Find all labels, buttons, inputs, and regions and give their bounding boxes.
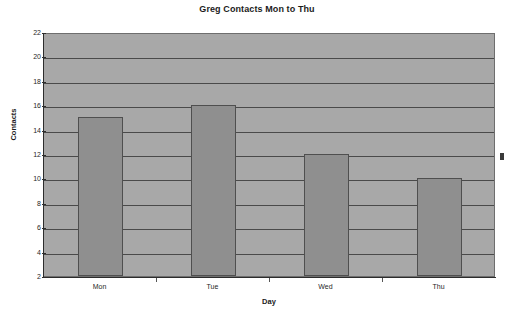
- gridline: [44, 34, 494, 35]
- x-tick-mark: [269, 278, 270, 282]
- bar: [417, 178, 462, 276]
- y-tick-label: 4: [15, 249, 41, 257]
- chart-title: Greg Contacts Mon to Thu: [0, 4, 514, 14]
- y-tick-mark: [42, 33, 46, 34]
- gridline: [44, 83, 494, 84]
- y-tick-label: 10: [15, 175, 41, 183]
- y-tick-mark: [42, 253, 46, 254]
- bar: [304, 154, 349, 276]
- y-tick-label: 18: [15, 78, 41, 86]
- y-tick-label: 22: [15, 29, 41, 37]
- x-tick-mark: [156, 278, 157, 282]
- y-tick-label: 20: [15, 53, 41, 61]
- y-tick-label: 6: [15, 224, 41, 232]
- bar-chart: Greg Contacts Mon to Thu 246810121416182…: [0, 0, 514, 320]
- y-tick-label: 2: [15, 273, 41, 281]
- x-tick-label: Mon: [93, 283, 107, 290]
- x-axis: MonTueWedThu: [43, 278, 495, 298]
- y-tick-mark: [42, 57, 46, 58]
- y-tick-mark: [42, 179, 46, 180]
- y-axis-title: Contacts: [9, 90, 18, 160]
- x-axis-title: Day: [43, 297, 495, 306]
- gridline: [44, 107, 494, 108]
- gridline: [44, 58, 494, 59]
- y-tick-mark: [42, 131, 46, 132]
- bar: [78, 117, 123, 276]
- y-tick-label: 14: [15, 127, 41, 135]
- x-tick-label: Thu: [432, 283, 444, 290]
- x-tick-label: Tue: [207, 283, 219, 290]
- x-tick-mark: [382, 278, 383, 282]
- plot-area: [43, 33, 495, 277]
- x-tick-label: Wed: [318, 283, 332, 290]
- y-tick-label: 12: [15, 151, 41, 159]
- y-tick-mark: [42, 155, 46, 156]
- y-tick-mark: [42, 106, 46, 107]
- y-tick-mark: [42, 204, 46, 205]
- y-tick-mark: [42, 228, 46, 229]
- bar: [191, 105, 236, 276]
- y-tick-label: 16: [15, 102, 41, 110]
- edge-mark-artifact: [500, 153, 504, 160]
- y-tick-mark: [42, 82, 46, 83]
- y-tick-label: 8: [15, 200, 41, 208]
